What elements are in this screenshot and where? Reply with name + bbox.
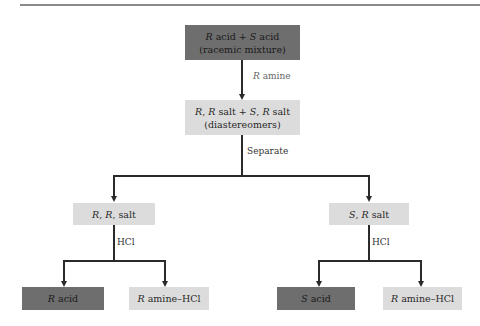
diastereomers-line2: (diastereomers) — [204, 118, 280, 131]
r-acid-box: R acid — [22, 287, 104, 310]
arrow-head-left-salt — [111, 196, 117, 202]
s-acid-box: S acid — [277, 287, 355, 310]
left-hcl-label: HCl — [117, 237, 135, 247]
arrow-head-right-salt — [366, 196, 372, 202]
racemic-line2: (racemic mixture) — [199, 43, 285, 56]
s-acid-label: S acid — [301, 292, 331, 305]
racemic-mixture-box: R acid + S acid (racemic mixture) — [185, 25, 300, 60]
split-horizontal — [113, 175, 370, 177]
arrow-line-1 — [241, 60, 243, 96]
left-hcl-line — [113, 225, 115, 261]
diastereomers-line1: R, R salt + S, R salt — [195, 105, 290, 118]
r-acid-label: R acid — [48, 292, 78, 305]
left-r-amine-hcl-box: R amine–HCl — [129, 287, 209, 310]
right-amine-down — [420, 260, 422, 282]
sr-salt-label: S, R salt — [349, 208, 389, 221]
separate-line — [241, 135, 243, 176]
right-acid-down — [318, 260, 320, 282]
racemic-line1: R acid + S acid — [206, 30, 280, 43]
step-r-amine-label: R amine — [253, 71, 291, 81]
rr-salt-label: R, R, salt — [92, 208, 136, 221]
rr-salt-box: R, R, salt — [73, 203, 155, 225]
right-product-horizontal — [318, 260, 421, 262]
top-rule — [20, 4, 480, 6]
left-amine-down — [164, 260, 166, 282]
left-acid-down — [63, 260, 65, 282]
right-hcl-line — [368, 225, 370, 261]
left-product-horizontal — [63, 260, 165, 262]
right-r-amine-hcl-label: R amine–HCl — [391, 292, 454, 305]
right-hcl-label: HCl — [372, 237, 390, 247]
left-r-amine-hcl-label: R amine–HCl — [138, 292, 201, 305]
right-r-amine-hcl-box: R amine–HCl — [383, 287, 462, 310]
split-left-down — [113, 175, 115, 198]
sr-salt-box: S, R salt — [329, 203, 409, 225]
step-separate-label: Separate — [247, 146, 288, 156]
split-right-down — [368, 175, 370, 198]
diastereomers-box: R, R salt + S, R salt (diastereomers) — [185, 100, 300, 135]
